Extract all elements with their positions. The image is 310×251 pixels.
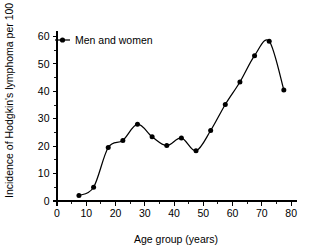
chart-container: Incidence of Hodgkin's lymphoma per 100 … bbox=[0, 0, 310, 251]
x-tick-label: 20 bbox=[110, 207, 122, 219]
data-point-marker bbox=[208, 128, 213, 133]
x-tick-label: 50 bbox=[197, 207, 209, 219]
data-point-marker bbox=[150, 134, 155, 139]
data-point-marker bbox=[106, 145, 111, 150]
data-point-marker bbox=[164, 143, 169, 148]
x-tick-label: 40 bbox=[168, 207, 180, 219]
y-tick-label: 10 bbox=[38, 167, 50, 179]
data-point-marker bbox=[194, 148, 199, 153]
x-tick-label: 70 bbox=[256, 207, 268, 219]
y-tick-label: 0 bbox=[44, 195, 50, 207]
y-tick-label: 60 bbox=[38, 30, 50, 42]
x-tick-label: 80 bbox=[285, 207, 297, 219]
y-tick-label: 20 bbox=[38, 140, 50, 152]
data-point-marker bbox=[267, 39, 272, 44]
y-tick-label: 30 bbox=[38, 112, 50, 124]
y-axis-title: Incidence of Hodgkin's lymphoma per 100 … bbox=[3, 0, 15, 198]
x-tick-label: 60 bbox=[227, 207, 239, 219]
y-tick-label: 40 bbox=[38, 85, 50, 97]
data-point-marker bbox=[91, 185, 96, 190]
data-point-marker bbox=[281, 87, 286, 92]
data-point-marker bbox=[76, 193, 81, 198]
data-point-marker bbox=[179, 135, 184, 140]
data-point-marker bbox=[120, 138, 125, 143]
data-point-marker bbox=[237, 80, 242, 85]
y-tick-label: 50 bbox=[38, 58, 50, 70]
legend-label-men-and-women: Men and women bbox=[75, 34, 153, 46]
x-axis-title: Age group (years) bbox=[134, 233, 218, 245]
data-point-marker bbox=[223, 102, 228, 107]
data-point-marker bbox=[135, 122, 140, 127]
x-tick-label: 0 bbox=[54, 207, 60, 219]
x-tick-label: 10 bbox=[80, 207, 92, 219]
hodgkin-incidence-line-chart: Incidence of Hodgkin's lymphoma per 100 … bbox=[0, 0, 310, 251]
data-point-marker bbox=[252, 53, 257, 58]
legend-marker-icon bbox=[60, 37, 65, 42]
x-tick-label: 30 bbox=[139, 207, 151, 219]
